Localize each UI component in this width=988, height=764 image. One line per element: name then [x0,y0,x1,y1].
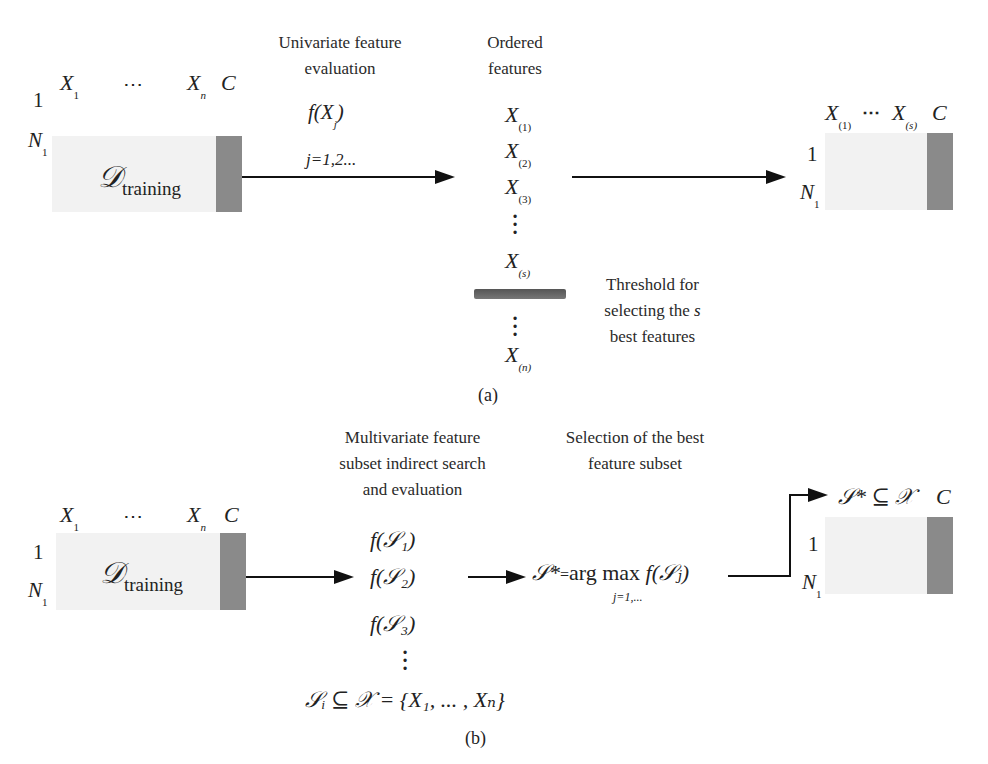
arrow-to-output [572,176,769,178]
row-n1-label: N1 [28,578,48,603]
argmax-index: j=1,... [613,590,642,605]
out-col-ellipsis: ⋯ [862,101,880,123]
arrowhead-icon [435,170,455,184]
f-s3: f(𝒮₃) [370,611,415,637]
row-1-label: 1 [33,540,44,565]
arrow-to-selection [468,576,508,578]
caption-b: (b) [465,728,486,749]
arrowhead-icon [506,570,526,584]
univariate-formula: f(Xj) [308,100,344,125]
out-row-1-label: 1 [808,532,819,557]
ordered-x1: X(1) [505,102,531,128]
threshold-bar [474,289,566,299]
out-row-1-label: 1 [807,142,818,167]
out-class-c-label: C [936,484,951,510]
ordered-xs: X(s) [505,248,530,274]
ordered-title: Ordered features [470,30,560,82]
vertical-ellipsis-2: ··· [510,314,520,338]
subset-definition: 𝒮ᵢ ⊆ 𝒳 = {X₁, ... , Xₙ} [305,687,505,713]
f-s1: f(𝒮₁) [370,527,415,553]
selection-title: Selection of the best feature subset [550,425,720,477]
arrow-to-search [246,576,336,578]
col-ellipsis: ⋯ [123,504,143,528]
arrow-to-ordered [242,176,437,178]
arrow-elbow-top [789,494,809,496]
class-c-label: C [221,70,236,96]
col-xn-label: Xn [187,70,206,96]
training-set-label: 𝒟training [98,160,181,195]
out-col-xs-label: X(s) [892,100,917,126]
arrowhead-icon [766,170,786,184]
out-col-x1-label: X(1) [825,100,851,126]
ordered-x2: X(2) [505,138,531,164]
arrowhead-icon [334,570,354,584]
f-s2: f(𝒮₂) [370,564,415,590]
vertical-ellipsis-1: ··· [510,212,520,236]
selected-table [825,133,927,210]
class-column [220,533,246,610]
class-column [216,136,242,212]
arrow-elbow-vertical [789,494,791,577]
ordered-x3: X(3) [505,174,531,200]
multivariate-title: Multivariate feature subset indirect sea… [305,425,520,503]
selected-subset-header: 𝒮* ⊆ 𝒳 [838,484,914,510]
col-x1-label: X1 [60,502,79,528]
argmax-formula: 𝒮*=arg max f(𝒮ⱼ) [532,560,689,586]
ordered-xn: X(n) [505,342,531,368]
arrowhead-icon [808,488,828,502]
selected-table [825,517,927,594]
col-x1-label: X1 [60,70,79,96]
vertical-ellipsis-3: ··· [400,648,410,672]
class-c-label: C [224,502,239,528]
out-class-column [927,517,953,594]
out-row-n1-label: N1 [802,570,822,595]
col-ellipsis: ⋯ [123,72,143,96]
out-class-column [927,133,953,210]
caption-a: (a) [478,385,498,406]
arrow-elbow-horizontal [728,575,790,577]
row-1-label: 1 [33,88,44,113]
row-n1-label: N1 [28,128,48,153]
threshold-label: Threshold for selecting the s best featu… [575,272,730,350]
col-xn-label: Xn [187,502,206,528]
training-set-label: 𝒟training [100,556,183,591]
out-row-n1-label: N1 [800,180,820,205]
univariate-index: j=1,2... [306,150,356,170]
univariate-title: Univariate feature evaluation [240,30,440,82]
out-class-c-label: C [932,100,947,126]
